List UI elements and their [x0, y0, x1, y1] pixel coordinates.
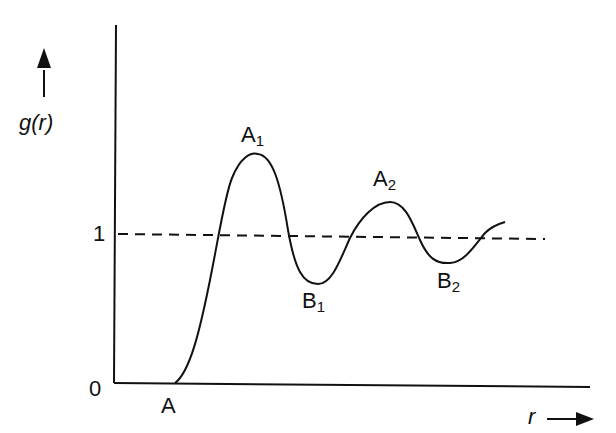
arrow-right-icon [576, 412, 594, 426]
point-label-A: A [161, 395, 176, 417]
rdf-diagram [0, 0, 616, 433]
y-axis [114, 25, 116, 383]
y-axis-label: g(r) [19, 112, 53, 134]
gr-curve [175, 154, 505, 383]
x-axis [114, 383, 590, 387]
arrow-up-icon [37, 48, 51, 68]
x-axis-label: r [528, 406, 535, 428]
tick-zero: 0 [89, 378, 101, 400]
point-label-A1: A1 [241, 124, 264, 146]
point-label-B2: B2 [437, 270, 460, 292]
point-label-A2: A2 [373, 168, 396, 190]
point-label-B1: B1 [302, 290, 325, 312]
tick-one: 1 [93, 223, 105, 245]
